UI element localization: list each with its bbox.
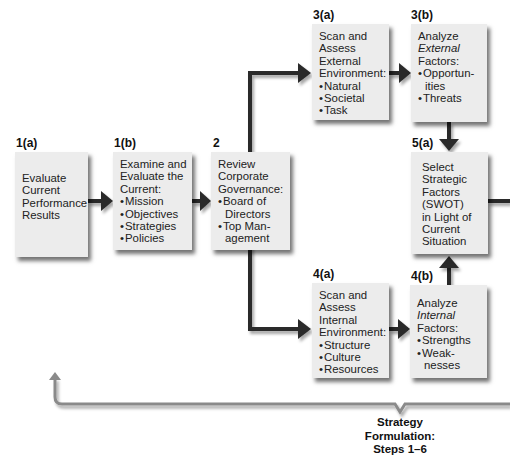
step-text: in Light of bbox=[422, 211, 481, 223]
step-text: External bbox=[319, 55, 382, 67]
step-text: Assess bbox=[319, 301, 382, 313]
step-box-5a: Select Strategic Factors (SWOT) in Light… bbox=[411, 152, 488, 254]
step-text: Select bbox=[422, 161, 481, 173]
bullet-continuation: nesses bbox=[417, 359, 480, 371]
step-box-1b: Examine and Evaluate the Current: Missio… bbox=[113, 152, 192, 250]
bullet-continuation: agement bbox=[218, 232, 283, 244]
arrowhead-3a bbox=[298, 63, 311, 83]
step-text: Governance: bbox=[218, 183, 283, 195]
step-text: Factors bbox=[422, 186, 481, 198]
step-label-4a: 4(a) bbox=[313, 267, 334, 281]
step-box-3b: Analyze External Factors: Opportun- itie… bbox=[411, 24, 487, 122]
bullet-continuation: Directors bbox=[218, 208, 283, 220]
step-box-4b: Analyze Internal Factors: Strengths Weak… bbox=[410, 285, 487, 378]
bullet-item: Resources bbox=[319, 363, 382, 375]
step-text: Performance bbox=[22, 197, 81, 209]
arrowhead-3b bbox=[399, 63, 411, 83]
step-text: Evaluate the bbox=[120, 170, 185, 182]
step-box-4a: Scan and Assess Internal Environment: St… bbox=[312, 283, 389, 378]
step-label-3b: 3(b) bbox=[411, 8, 433, 22]
bullet-item: Mission bbox=[120, 195, 185, 207]
step-label-4b: 4(b) bbox=[411, 269, 433, 283]
bullet-item: Task bbox=[319, 104, 382, 116]
bullet-item: Board of bbox=[218, 195, 283, 207]
step-text: Strategic bbox=[422, 173, 481, 185]
step-text: Examine and bbox=[120, 158, 185, 170]
step-text: Factors: bbox=[417, 322, 480, 334]
arrowhead-1b bbox=[101, 191, 113, 211]
step-text: Scan and bbox=[319, 30, 382, 42]
bullet-item: Natural bbox=[319, 80, 382, 92]
bullet-item: Threats bbox=[418, 92, 480, 104]
step-label-5a: 5(a) bbox=[412, 136, 433, 150]
bracket-caption: Strategy Formulation: Steps 1–6 bbox=[350, 416, 450, 457]
step-text: Current bbox=[422, 223, 481, 235]
bullet-item: Weak- bbox=[417, 347, 480, 359]
caption-line: Strategy bbox=[350, 416, 450, 430]
arrowhead-5a-bottom bbox=[439, 256, 459, 268]
step-box-1a: Evaluate Current Performance Results bbox=[15, 152, 88, 257]
bracket-line bbox=[55, 378, 510, 412]
bullet-item: Strengths bbox=[417, 334, 480, 346]
step-text: Corporate bbox=[218, 170, 283, 182]
step-label-1a: 1(a) bbox=[16, 136, 37, 150]
arrowhead-2 bbox=[200, 191, 211, 211]
caption-line: Steps 1–6 bbox=[350, 443, 450, 457]
bullet-item: Policies bbox=[120, 232, 185, 244]
step-label-3a: 3(a) bbox=[313, 8, 334, 22]
step-text: Assess bbox=[319, 42, 382, 54]
bracket-arrowhead bbox=[49, 372, 61, 380]
step-text: Environment: bbox=[319, 67, 382, 79]
step-label-2: 2 bbox=[213, 136, 220, 150]
bullet-item: Strategies bbox=[120, 220, 185, 232]
step-text: (SWOT) bbox=[422, 198, 481, 210]
step-text-emphasis: Internal bbox=[417, 309, 455, 321]
step-box-3a: Scan and Assess External Environment: Na… bbox=[312, 24, 389, 120]
step-text: Current: bbox=[120, 183, 185, 195]
bullet-continuation: ities bbox=[418, 80, 480, 92]
step-text: Results bbox=[22, 209, 81, 221]
step-text: Situation bbox=[422, 235, 481, 247]
bullet-item: Objectives bbox=[120, 208, 185, 220]
step-text: Analyze bbox=[418, 30, 480, 42]
step-text: Scan and bbox=[319, 289, 382, 301]
arrowhead-4b bbox=[398, 319, 410, 339]
bullet-item: Culture bbox=[319, 351, 382, 363]
step-box-2: Review Corporate Governance: Board of Di… bbox=[211, 152, 290, 250]
step-text-emphasis: External bbox=[418, 42, 460, 54]
bullet-item: Structure bbox=[319, 339, 382, 351]
step-text: Review bbox=[218, 158, 283, 170]
arrowhead-4a bbox=[298, 319, 311, 339]
bullet-item: Opportun- bbox=[418, 67, 480, 79]
step-text: Analyze bbox=[417, 297, 480, 309]
step-text: Evaluate bbox=[22, 172, 81, 184]
bullet-item: Societal bbox=[319, 92, 382, 104]
step-text: Factors: bbox=[418, 55, 480, 67]
step-text: Environment: bbox=[319, 326, 382, 338]
arrowhead-5a-top bbox=[439, 139, 459, 151]
step-text: Internal bbox=[319, 314, 382, 326]
caption-line: Formulation: bbox=[350, 430, 450, 444]
bullet-item: Top Man- bbox=[218, 220, 283, 232]
step-text: Current bbox=[22, 184, 81, 196]
step-label-1b: 1(b) bbox=[114, 136, 136, 150]
